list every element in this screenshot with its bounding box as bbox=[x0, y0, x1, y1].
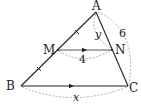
triangle-diagram: A M N B C y 6 4 x bbox=[0, 0, 141, 104]
measure-y: y bbox=[94, 28, 102, 41]
label-a: A bbox=[91, 0, 101, 13]
measure-x: x bbox=[73, 91, 80, 104]
parallel-arrow-mn bbox=[82, 48, 87, 52]
label-n: N bbox=[115, 43, 126, 57]
measure-4: 4 bbox=[79, 53, 86, 66]
side-ab bbox=[21, 12, 96, 86]
measure-6: 6 bbox=[119, 27, 126, 40]
point-m-dot bbox=[57, 49, 59, 51]
label-m: M bbox=[43, 43, 55, 57]
point-n-dot bbox=[111, 49, 113, 51]
label-b: B bbox=[6, 79, 15, 93]
label-c: C bbox=[129, 81, 138, 95]
parallel-arrow-bc bbox=[69, 84, 74, 88]
